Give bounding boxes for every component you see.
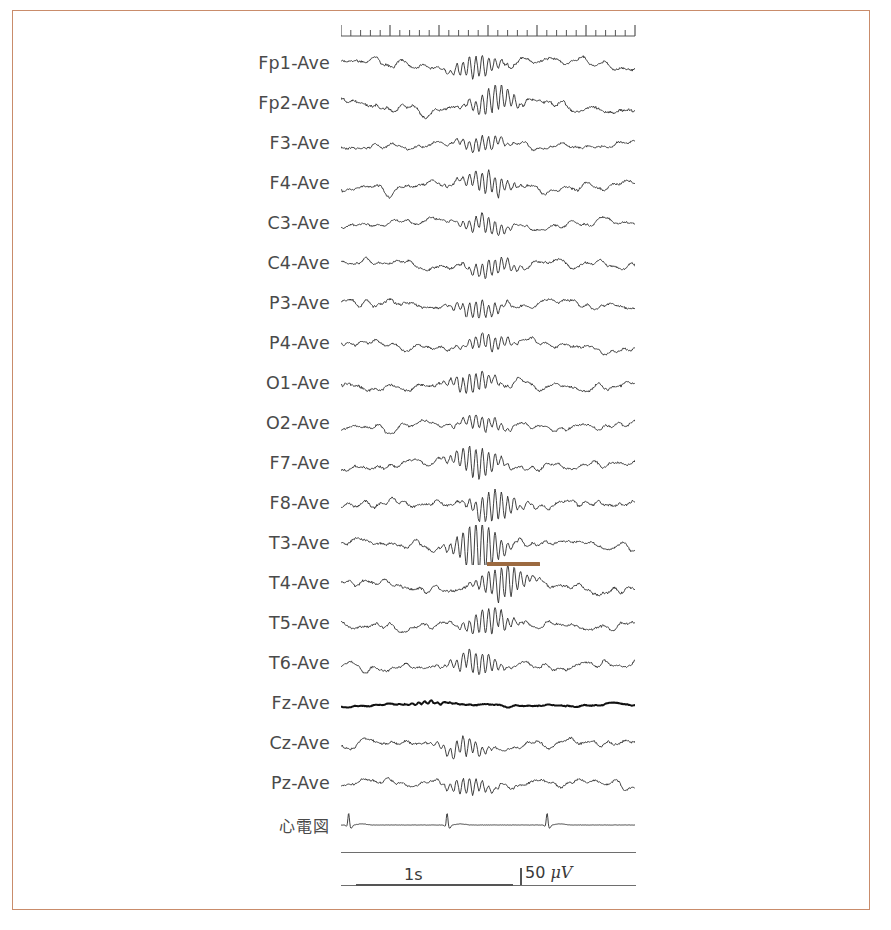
channel-fp2-ave-path (341, 85, 635, 119)
channel-f8-ave-label: F8-Ave (150, 493, 330, 513)
calibration-top-rule (341, 852, 636, 853)
channel-t4-ave-trace (341, 565, 635, 605)
channel-t6-ave-trace (341, 645, 635, 685)
channel-c3-ave-path (341, 213, 635, 236)
channel-c4-ave-path (341, 257, 635, 279)
channel-fp2-ave-label: Fp2-Ave (150, 93, 330, 113)
channel-f3-ave-trace-wrap (341, 125, 635, 165)
channel-p4-ave-label: P4-Ave (150, 333, 330, 353)
channel-c4-ave-trace (341, 245, 635, 285)
channel-p3-ave-trace (341, 285, 635, 325)
channel-ecg-trace-wrap (341, 805, 635, 845)
channel-ecg-label: 心電図 (150, 813, 330, 837)
channel-ecg-row: 心電図 (0, 805, 891, 845)
channel-t4-ave-row: T4-Ave (0, 565, 891, 605)
channel-fz-ave-row: Fz-Ave (0, 685, 891, 725)
channel-o2-ave-trace (341, 405, 635, 445)
channel-c3-ave-label: C3-Ave (150, 213, 330, 233)
channel-f8-ave-trace-wrap (341, 485, 635, 525)
channel-cz-ave-trace (341, 725, 635, 765)
channel-f4-ave-trace (341, 165, 635, 205)
time-ruler (341, 24, 641, 39)
channel-o1-ave-row: O1-Ave (0, 365, 891, 405)
amplitude-unit: μV (545, 863, 572, 882)
channel-fz-ave-trace (341, 685, 635, 725)
channel-c4-ave-label: C4-Ave (150, 253, 330, 273)
channel-cz-ave-label: Cz-Ave (150, 733, 330, 753)
channel-fp2-ave-row: Fp2-Ave (0, 85, 891, 125)
channel-t3-ave-row: T3-Ave (0, 525, 891, 565)
channel-t3-ave-trace-wrap (341, 525, 635, 565)
channel-t4-ave-label: T4-Ave (150, 573, 330, 593)
channel-fp2-ave-trace-wrap (341, 85, 635, 125)
channel-cz-ave-trace-wrap (341, 725, 635, 765)
channel-f3-ave-label: F3-Ave (150, 133, 330, 153)
channel-o2-ave-trace-wrap (341, 405, 635, 445)
channel-f4-ave-path (341, 170, 635, 199)
channel-t3-ave-path (341, 525, 635, 565)
channel-t6-ave-path (341, 649, 635, 675)
channel-f7-ave-path (341, 446, 635, 479)
channel-t3-ave-label: T3-Ave (150, 533, 330, 553)
channel-t5-ave-trace-wrap (341, 605, 635, 645)
channel-p3-ave-trace-wrap (341, 285, 635, 325)
channel-f7-ave-trace (341, 445, 635, 485)
channel-o2-ave-row: O2-Ave (0, 405, 891, 445)
channel-fz-ave-path (341, 700, 635, 707)
channel-f4-ave-label: F4-Ave (150, 173, 330, 193)
channel-fz-ave-trace-wrap (341, 685, 635, 725)
channel-c3-ave-trace (341, 205, 635, 245)
amplitude-value: 50 (525, 863, 545, 882)
channel-f3-ave-trace (341, 125, 635, 165)
eeg-chart-page: Fp1-AveFp2-AveF3-AveF4-AveC3-AveC4-AveP3… (0, 0, 891, 930)
channel-fp1-ave-trace-wrap (341, 45, 635, 85)
t3-burst-marker (487, 562, 540, 566)
channel-c4-ave-row: C4-Ave (0, 245, 891, 285)
channel-t5-ave-row: T5-Ave (0, 605, 891, 645)
channel-p3-ave-row: P3-Ave (0, 285, 891, 325)
channel-ecg-trace (341, 805, 635, 845)
channel-o1-ave-trace (341, 365, 635, 405)
channel-fp1-ave-path (341, 56, 635, 80)
channel-pz-ave-trace (341, 765, 635, 805)
channel-c4-ave-trace-wrap (341, 245, 635, 285)
channel-t4-ave-path (341, 565, 635, 603)
channel-cz-ave-path (341, 736, 635, 759)
channel-t6-ave-label: T6-Ave (150, 653, 330, 673)
channel-f7-ave-trace-wrap (341, 445, 635, 485)
channel-p4-ave-path (341, 333, 635, 355)
channel-fp2-ave-trace (341, 85, 635, 125)
channel-p3-ave-label: P3-Ave (150, 293, 330, 313)
channel-o2-ave-path (341, 415, 635, 434)
channel-pz-ave-path (341, 778, 635, 796)
eeg-chart-area: Fp1-AveFp2-AveF3-AveF4-AveC3-AveC4-AveP3… (0, 0, 891, 930)
channel-ecg-path (341, 814, 635, 829)
channel-o1-ave-path (341, 371, 635, 393)
channel-f7-ave-row: F7-Ave (0, 445, 891, 485)
channel-t3-ave-trace (341, 525, 635, 565)
channel-t6-ave-trace-wrap (341, 645, 635, 685)
channel-f8-ave-trace (341, 485, 635, 525)
channel-o2-ave-label: O2-Ave (150, 413, 330, 433)
channel-c3-ave-trace-wrap (341, 205, 635, 245)
channel-p4-ave-trace (341, 325, 635, 365)
time-scale-bar (356, 884, 513, 886)
channel-cz-ave-row: Cz-Ave (0, 725, 891, 765)
channel-pz-ave-row: Pz-Ave (0, 765, 891, 805)
channel-f8-ave-path (341, 489, 635, 522)
channel-p4-ave-row: P4-Ave (0, 325, 891, 365)
channel-fp1-ave-trace (341, 45, 635, 85)
channel-o1-ave-label: O1-Ave (150, 373, 330, 393)
channel-t4-ave-trace-wrap (341, 565, 635, 605)
channel-t5-ave-label: T5-Ave (150, 613, 330, 633)
channel-t5-ave-trace (341, 605, 635, 645)
channel-fz-ave-label: Fz-Ave (150, 693, 330, 713)
channel-fp1-ave-label: Fp1-Ave (150, 53, 330, 73)
channel-c3-ave-row: C3-Ave (0, 205, 891, 245)
time-scale-label: 1s (404, 865, 423, 884)
channel-f3-ave-path (341, 135, 635, 153)
channel-f4-ave-row: F4-Ave (0, 165, 891, 205)
channel-f4-ave-trace-wrap (341, 165, 635, 205)
amplitude-scale-tick (520, 868, 522, 885)
channel-f8-ave-row: F8-Ave (0, 485, 891, 525)
